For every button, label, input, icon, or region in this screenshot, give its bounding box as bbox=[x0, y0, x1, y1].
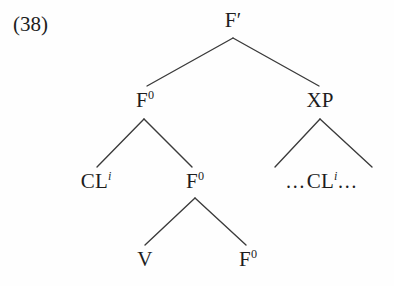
tree-node-xp-label: XP bbox=[306, 88, 333, 112]
superscript-index-i: i bbox=[108, 169, 111, 183]
superscript-zero: 0 bbox=[251, 247, 257, 261]
branch-root-to-xp bbox=[233, 38, 319, 86]
tree-node-xp: XP bbox=[306, 90, 333, 111]
tree-node-v-label: V bbox=[137, 247, 152, 271]
superscript-zero: 0 bbox=[198, 169, 204, 183]
branch-xp-to-left bbox=[275, 119, 320, 167]
tree-branch-lines bbox=[0, 0, 394, 286]
tree-node-root: F′ bbox=[225, 10, 241, 31]
branch-f0mid-to-v bbox=[145, 198, 195, 245]
tree-node-cl-trace-label: CL bbox=[307, 169, 334, 193]
tree-node-cl-trace: …CLi… bbox=[285, 171, 359, 192]
tree-node-v: V bbox=[137, 249, 152, 270]
tree-node-f0-bottom-label: F bbox=[239, 247, 251, 271]
syntax-tree-figure: (38) F′ F0 XP CLi F0 …CLi… V F0 bbox=[0, 0, 394, 286]
branch-f0mid-to-f0bottom bbox=[195, 198, 246, 245]
superscript-zero: 0 bbox=[148, 88, 154, 102]
tree-node-cl-specifier: CLi bbox=[81, 171, 112, 192]
branch-f0-to-f0mid bbox=[144, 119, 192, 167]
tree-node-f0-middle: F0 bbox=[186, 171, 204, 192]
tree-node-f0-left-label: F bbox=[136, 88, 148, 112]
ellipsis-left: … bbox=[285, 170, 306, 192]
tree-node-cl-specifier-label: CL bbox=[81, 169, 108, 193]
tree-node-f0-left: F0 bbox=[136, 90, 154, 111]
prime-mark: ′ bbox=[237, 9, 241, 31]
example-number: (38) bbox=[13, 12, 48, 37]
branch-f0-to-cl bbox=[97, 119, 144, 167]
ellipsis-right: … bbox=[337, 170, 358, 192]
tree-node-f0-bottom: F0 bbox=[239, 249, 257, 270]
tree-node-root-label: F bbox=[225, 8, 237, 32]
branch-root-to-f0 bbox=[147, 38, 233, 86]
tree-node-f0-middle-label: F bbox=[186, 169, 198, 193]
branch-xp-to-right bbox=[320, 119, 372, 167]
